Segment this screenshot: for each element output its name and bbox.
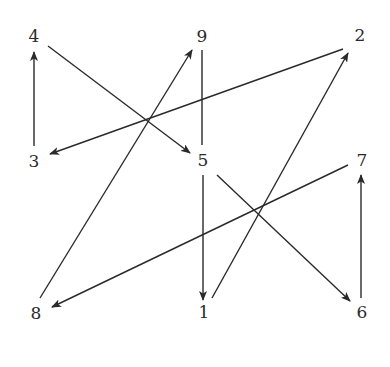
node-label-6: 6 bbox=[357, 302, 368, 322]
arrow-8-to-9 bbox=[40, 50, 192, 298]
node-label-3: 3 bbox=[29, 151, 40, 171]
graph-diagram: 492357816 bbox=[0, 0, 390, 367]
edges-group bbox=[34, 46, 361, 307]
node-label-9: 9 bbox=[197, 26, 208, 46]
arrow-5-to-6 bbox=[217, 175, 350, 301]
node-label-1: 1 bbox=[199, 302, 210, 322]
node-label-2: 2 bbox=[355, 25, 366, 45]
arrow-4-to-5 bbox=[48, 46, 190, 153]
node-label-8: 8 bbox=[31, 303, 42, 323]
arrow-7-to-8 bbox=[52, 165, 348, 307]
node-label-4: 4 bbox=[29, 26, 40, 46]
node-label-5: 5 bbox=[198, 150, 209, 170]
node-label-7: 7 bbox=[357, 150, 368, 170]
arrow-2-to-3 bbox=[50, 49, 343, 154]
